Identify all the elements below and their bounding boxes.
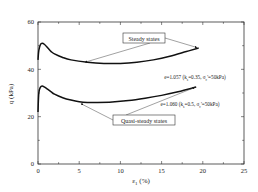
quasi-steady-states-label: Quasi-steady states — [121, 118, 168, 124]
steady-states-callout: Steady states — [123, 33, 165, 43]
arrow-quasi-min — [81, 104, 113, 120]
x-tick-label: 15 — [158, 167, 165, 174]
x-tick-label: 0 — [36, 167, 39, 174]
steady-curve — [38, 43, 199, 63]
y-tick-label: 40 — [28, 66, 35, 73]
chart: 05101520250204060 q (kPa) ε1 (%) Steady … — [0, 0, 258, 192]
y-axis-label: q (kPa) — [7, 83, 15, 104]
x-axis-label: ε1 (%) — [132, 177, 150, 186]
x-tick-label: 10 — [117, 167, 124, 174]
y-tick-label: 20 — [28, 113, 35, 120]
steady-states-label: Steady states — [128, 36, 160, 42]
quasi-steady-states-callout: Quasi-steady states — [113, 115, 175, 125]
x-tick-label: 20 — [200, 167, 207, 174]
x-tick-label: 25 — [241, 167, 248, 174]
y-tick-label: 0 — [31, 160, 34, 167]
y-tick-label: 60 — [28, 18, 35, 25]
arrow-steady-end — [165, 38, 197, 48]
series-2-label: e=1.060 (ks=0.5, σc'=50kPa) — [161, 101, 220, 109]
series-1-label: e=1.057 (ks=0.35, σc'=50kPa) — [164, 74, 226, 82]
quasi-steady-curve — [38, 86, 196, 112]
x-tick-label: 5 — [78, 167, 81, 174]
arrow-steady-min — [85, 43, 150, 62]
